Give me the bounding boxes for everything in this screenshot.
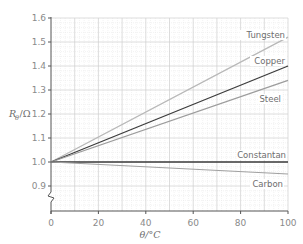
label-copper: Copper [254, 56, 285, 66]
x-tick-labels: 0 20 40 60 80 100 [48, 218, 297, 228]
x-tick-label: 0 [48, 218, 54, 228]
x-tick-label: 100 [279, 218, 296, 228]
x-tick-label: 40 [140, 218, 152, 228]
resistance-temperature-chart: 1.6 1.5 1.4 1.3 1.2 1.1 1.0 0.9 0 20 40 … [0, 0, 303, 244]
x-tick-label: 80 [235, 218, 247, 228]
y-tick-label: 1.4 [32, 61, 47, 71]
y-axis-title: R θ /Ω [8, 108, 31, 122]
y-tick-label: 1.3 [32, 85, 46, 95]
y-tick-label: 1.5 [32, 37, 46, 47]
y-tick-label: 1.2 [32, 109, 46, 119]
y-axis-title-unit: /Ω [20, 108, 31, 119]
x-tick-label: 60 [187, 218, 199, 228]
y-tick-label: 0.9 [32, 181, 47, 191]
label-steel: Steel [259, 94, 281, 104]
y-axis-title-sub: θ [15, 114, 19, 122]
y-tick-label: 1.1 [32, 133, 46, 143]
x-tick-label: 20 [93, 218, 105, 228]
y-tick-label: 1.0 [32, 157, 47, 167]
label-constantan: Constantan [237, 150, 286, 160]
label-carbon: Carbon [252, 179, 283, 189]
label-tungsten: Tungsten [246, 30, 285, 40]
x-axis-title: θ/°C [140, 229, 162, 240]
y-tick-labels: 1.6 1.5 1.4 1.3 1.2 1.1 1.0 0.9 [32, 13, 47, 191]
y-tick-label: 1.6 [32, 13, 47, 23]
series-labels: Tungsten Copper Steel Constantan Carbon [237, 30, 287, 189]
